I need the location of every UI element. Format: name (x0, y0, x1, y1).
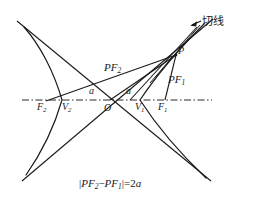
segment-pf2-label: PF2 (104, 62, 121, 75)
segment-pf1-subscript: 1 (181, 78, 185, 87)
point-p-marker (175, 54, 178, 57)
tangent-line-at-p (130, 27, 197, 100)
semi-axis-right-label: a (126, 86, 131, 96)
focus-right-subscript: 1 (164, 106, 167, 113)
caption-pf2: PF (81, 177, 94, 189)
hyperbola-branch-right (140, 24, 206, 178)
center-label: O (104, 103, 111, 113)
figure-canvas: 切线 P PF2 PF1 a a F2 V2 O V1 F1 |PF2−PF1|… (0, 0, 255, 204)
focus-right-label: F1 (158, 102, 168, 114)
vertex-right-label: V1 (135, 102, 145, 114)
segment-pf1-label: PF1 (168, 74, 185, 87)
point-p-label: P (178, 46, 184, 56)
caption-pf1: PF (105, 177, 118, 189)
semi-axis-left-label: a (89, 86, 94, 96)
vertex-left-subscript: 2 (68, 106, 71, 113)
segment-pf2-base: PF (104, 61, 117, 73)
caption-bar-close: |=2 (122, 177, 136, 189)
vertex-left-label: V2 (62, 102, 72, 114)
focus-left-label: F2 (37, 102, 47, 114)
segment-pf2-subscript: 2 (117, 66, 121, 75)
focus-left-subscript: 2 (43, 106, 46, 113)
tangent-label: 切线 (202, 16, 224, 27)
caption-a: a (136, 177, 142, 189)
segment-pf1-base: PF (168, 73, 181, 85)
figure-caption: |PF2−PF1|=2a (79, 178, 141, 191)
vertex-right-subscript: 1 (141, 106, 144, 113)
